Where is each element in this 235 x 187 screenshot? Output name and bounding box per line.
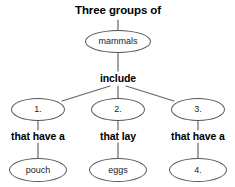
edge-link1-to-g3 [126,86,174,101]
diagram-title: Three groups of [59,3,177,19]
node-group-3-label: 3. [194,105,202,114]
link-label-that-have-a-left-text: that have a [11,131,65,142]
link-label-that-have-a-right: that have a [160,129,235,144]
node-group-2[interactable]: 2. [91,98,145,121]
node-mammals[interactable]: mammals [85,30,151,53]
node-leaf-pouch-label: pouch [26,166,51,175]
link-label-that-lay: that lay [88,129,148,144]
node-leaf-eggs-label: eggs [108,166,128,175]
node-leaf-eggs[interactable]: eggs [89,158,147,182]
node-mammals-label: mammals [98,37,137,46]
node-group-2-label: 2. [114,105,122,114]
link-label-that-lay-text: that lay [100,131,136,142]
node-group-1[interactable]: 1. [11,98,65,121]
link-label-include: include [88,71,148,86]
diagram-title-label: Three groups of [75,5,161,17]
node-leaf-pouch[interactable]: pouch [9,158,67,182]
link-label-that-have-a-right-text: that have a [171,131,225,142]
node-leaf-4-label: 4. [194,166,202,175]
concept-map-diagram: Three groups of mammals include 1. 2. 3.… [0,0,235,187]
node-group-3[interactable]: 3. [171,98,225,121]
node-group-1-label: 1. [34,105,42,114]
link-label-include-text: include [100,73,136,84]
node-leaf-4[interactable]: 4. [169,158,227,182]
link-label-that-have-a-left: that have a [0,129,76,144]
